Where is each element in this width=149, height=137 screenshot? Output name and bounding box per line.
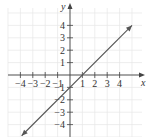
x-axis-label: x <box>140 77 146 88</box>
x-tick-label: 4 <box>117 78 122 89</box>
x-tick-label: 1 <box>80 78 85 89</box>
x-tick-label: −2 <box>40 78 51 89</box>
grid <box>8 8 142 137</box>
y-tick-label: −2 <box>54 94 65 105</box>
y-tick-label: 3 <box>60 32 65 43</box>
coordinate-plane: x y −4−3−2−112344321−1−2−3−4 <box>0 0 149 137</box>
y-tick-label: 2 <box>60 45 65 56</box>
x-tick-label: 2 <box>92 78 97 89</box>
y-axis-arrow-icon <box>68 3 73 9</box>
y-axis-label: y <box>60 1 66 12</box>
x-tick-label: −4 <box>15 78 26 89</box>
y-tick-label: −1 <box>54 82 65 93</box>
axes: x y <box>8 1 146 137</box>
y-tick-label: 4 <box>60 20 65 31</box>
y-tick-label: −4 <box>54 119 65 130</box>
x-tick-label: −3 <box>27 78 38 89</box>
series <box>22 25 132 135</box>
y-tick-label: 1 <box>60 57 65 68</box>
y-tick-label: −3 <box>54 107 65 118</box>
x-tick-label: 3 <box>105 78 110 89</box>
data-line <box>22 25 132 135</box>
